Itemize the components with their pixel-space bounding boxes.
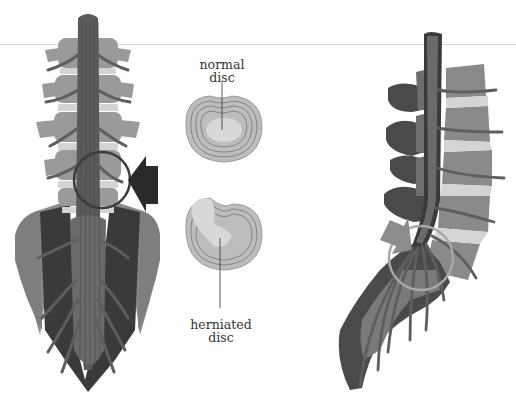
lateral-spine-illustration — [0, 0, 516, 410]
arrow-icon-lateral — [380, 218, 412, 254]
